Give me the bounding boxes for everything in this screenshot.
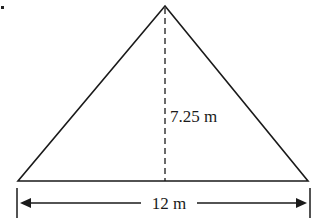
base-label: 12 m (152, 194, 186, 213)
triangle-shape (18, 6, 308, 181)
arrowhead-left-icon (20, 198, 31, 208)
triangle-diagram: 7.25 m 12 m (0, 0, 317, 218)
height-label: 7.25 m (170, 107, 217, 126)
arrowhead-right-icon (296, 198, 307, 208)
bullet-dot (1, 6, 4, 9)
